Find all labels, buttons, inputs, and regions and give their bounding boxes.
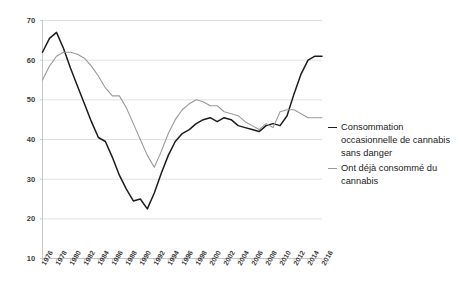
data-series-layer bbox=[43, 32, 323, 209]
chart-figure: 10203040506070 1976197819801982198419861… bbox=[0, 0, 459, 295]
y-tick-label-60: 60 bbox=[12, 56, 36, 65]
y-tick-label-40: 40 bbox=[12, 135, 36, 144]
y-tick-label-70: 70 bbox=[12, 16, 36, 25]
legend-entry-1: Ont déjà consommé du cannabis bbox=[328, 162, 456, 188]
chart-legend: Consommation occasionnelle de cannabis s… bbox=[328, 121, 456, 189]
legend-entry-0: Consommation occasionnelle de cannabis s… bbox=[328, 121, 456, 161]
legend-label-ont-deja-consomme: Ont déjà consommé du cannabis bbox=[341, 162, 456, 188]
y-tick-label-10: 10 bbox=[12, 254, 36, 263]
y-tick-label-30: 30 bbox=[12, 175, 36, 184]
gridlines bbox=[43, 21, 323, 219]
legend-label-consommation-occasionnelle: Consommation occasionnelle de cannabis s… bbox=[341, 121, 456, 161]
series-line-1 bbox=[43, 52, 323, 167]
y-tick-label-20: 20 bbox=[12, 214, 36, 223]
legend-swatch-ont-deja-consomme bbox=[328, 168, 337, 169]
legend-swatch-consommation-occasionnelle bbox=[328, 127, 337, 128]
y-tick-label-50: 50 bbox=[12, 95, 36, 104]
